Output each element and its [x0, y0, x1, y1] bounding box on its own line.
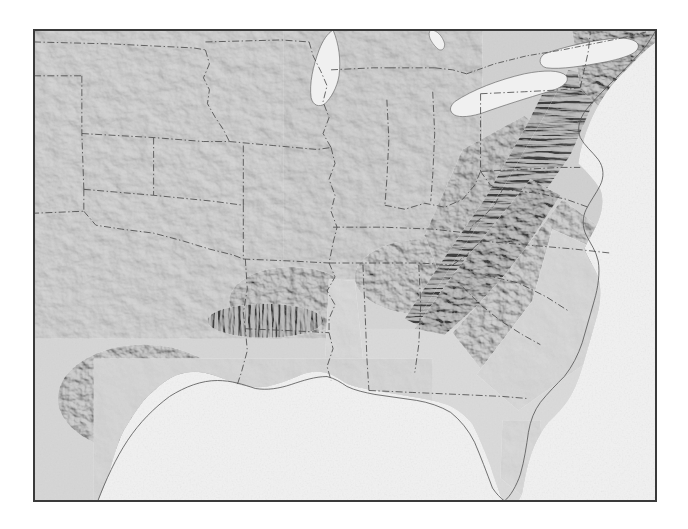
- relief-map-canvas: [34, 30, 656, 501]
- relief-map-figure: [33, 29, 657, 502]
